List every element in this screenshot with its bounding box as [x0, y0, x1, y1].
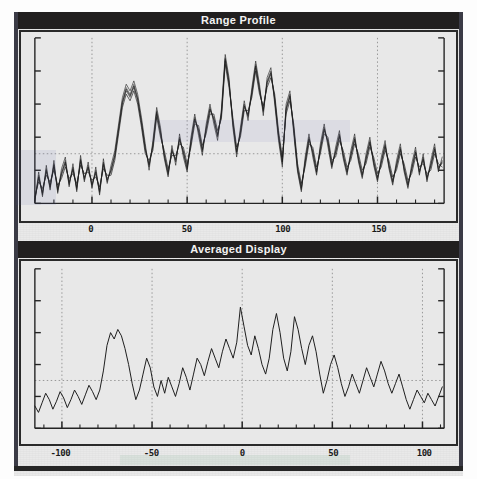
- panel-averaged-display: Averaged Display -100-50050100: [18, 241, 459, 476]
- panel-title-range-profile: Range Profile: [18, 12, 459, 29]
- xaxis-labels-range-profile: 050100150: [19, 224, 458, 237]
- xtick-label: 100: [417, 448, 432, 458]
- radar-display-figure: Range Profile 050100150 Averaged Display…: [0, 0, 477, 479]
- plot-area-averaged-display: [19, 259, 458, 446]
- range-profile-svg: [21, 32, 456, 221]
- xtick-label: -100: [50, 448, 70, 458]
- plot-area-range-profile: [19, 30, 458, 223]
- xtick-label: -50: [144, 448, 159, 458]
- xtick-label: 0: [88, 224, 93, 234]
- xaxis-labels-averaged-display: -100-50050100: [19, 448, 458, 461]
- xtick-label: 50: [328, 448, 338, 458]
- xtick-label: 100: [275, 224, 290, 234]
- xtick-label: 50: [182, 224, 192, 234]
- panel-title-averaged-display: Averaged Display: [18, 241, 459, 258]
- figure-right-edge: [459, 12, 463, 471]
- xtick-label: 150: [371, 224, 386, 234]
- figure-bottom-edge: [14, 466, 463, 471]
- averaged-display-svg: [21, 261, 456, 444]
- panel-range-profile: Range Profile 050100150: [18, 12, 459, 237]
- xtick-label: 0: [240, 448, 245, 458]
